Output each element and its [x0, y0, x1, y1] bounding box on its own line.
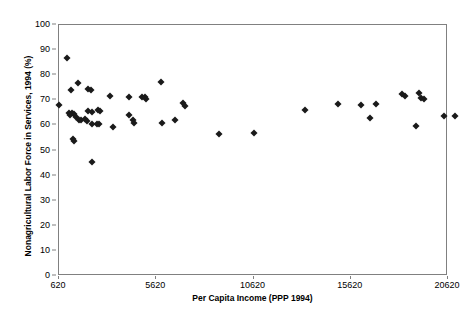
- y-axis-tick-mark: [52, 149, 56, 150]
- data-point: [172, 116, 179, 123]
- data-point: [159, 119, 166, 126]
- plot-area: [58, 24, 447, 275]
- y-axis-title: Nonagricultural Labor Force in Services,…: [21, 51, 35, 261]
- y-axis-tick-label: 70: [40, 95, 50, 104]
- y-axis-tick-label: 20: [40, 220, 50, 229]
- y-axis-tick-label: 100: [35, 20, 50, 29]
- y-axis-tick-mark: [52, 99, 56, 100]
- data-point: [74, 79, 81, 86]
- y-axis-tick-mark: [52, 174, 56, 175]
- data-point: [89, 158, 96, 165]
- x-axis-tick-mark: [58, 276, 59, 279]
- y-axis-tick-mark: [52, 74, 56, 75]
- y-axis-tick-mark: [52, 124, 56, 125]
- data-point: [55, 102, 62, 109]
- x-axis-tick-mark: [350, 276, 351, 279]
- y-axis-tick-mark: [52, 224, 56, 225]
- data-point: [372, 101, 379, 108]
- data-point: [413, 122, 420, 129]
- x-axis-tick-label: 15620: [337, 280, 362, 290]
- x-axis-tick-mark: [253, 276, 254, 279]
- data-point: [301, 106, 308, 113]
- data-point: [421, 96, 428, 103]
- data-point: [157, 78, 164, 85]
- data-point: [452, 112, 459, 119]
- y-axis-tick-mark: [52, 249, 56, 250]
- y-axis-tick-mark: [52, 49, 56, 50]
- x-axis-tick-label: 10620: [240, 280, 265, 290]
- data-point: [181, 103, 188, 110]
- x-axis-tick-mark: [155, 276, 156, 279]
- x-axis-tick-label: 5620: [145, 280, 165, 290]
- y-axis-tick-label: 90: [40, 45, 50, 54]
- data-point: [215, 131, 222, 138]
- data-point: [401, 92, 408, 99]
- y-axis-tick-label: 40: [40, 170, 50, 179]
- y-axis-tick-mark: [52, 199, 56, 200]
- y-axis-tick-mark: [52, 24, 56, 25]
- x-axis: 6205620106201562020620: [0, 276, 471, 292]
- data-point: [107, 93, 114, 100]
- y-axis-tick-label: 50: [40, 145, 50, 154]
- data-point: [440, 113, 447, 120]
- data-point: [67, 86, 74, 93]
- x-axis-tick-label: 20620: [434, 280, 459, 290]
- data-point: [366, 114, 373, 121]
- x-axis-tick-label: 620: [50, 280, 65, 290]
- y-axis-tick-label: 10: [40, 245, 50, 254]
- scatter-chart-figure: 0102030405060708090100 Nonagricultural L…: [0, 0, 471, 321]
- data-point: [334, 100, 341, 107]
- data-point: [251, 129, 258, 136]
- data-point: [110, 124, 117, 131]
- data-point: [70, 138, 77, 145]
- data-points-layer: [59, 25, 446, 274]
- y-axis-tick-label: 60: [40, 120, 50, 129]
- data-point: [358, 102, 365, 109]
- data-point: [126, 94, 133, 101]
- data-point: [131, 119, 138, 126]
- y-axis-tick-label: 30: [40, 195, 50, 204]
- x-axis-title: Per Capita Income (PPP 1994): [58, 292, 447, 304]
- x-axis-tick-mark: [447, 276, 448, 279]
- y-axis-tick-label: 80: [40, 70, 50, 79]
- data-point: [63, 54, 70, 61]
